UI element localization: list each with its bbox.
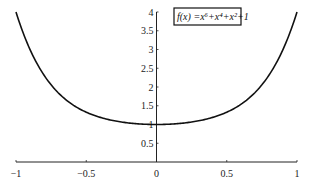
y-tick-label: 0.5	[141, 138, 154, 149]
y-tick-label: 2	[149, 82, 154, 93]
x-tick-label: 0	[154, 168, 159, 179]
x-tick-label: −1	[11, 168, 22, 179]
x-tick-label: 1	[295, 168, 300, 179]
y-tick-label: 4	[149, 7, 154, 18]
y-tick-label: 1.5	[141, 100, 154, 111]
x-tick-label: 0.5	[221, 168, 234, 179]
y-tick-label: 3	[149, 44, 154, 55]
legend: f(x) =x⁶+x⁴+x²+1	[174, 8, 249, 25]
legend-label: f(x) =x⁶+x⁴+x²+1	[177, 11, 249, 23]
chart: −1−0.500.510.511.522.533.54 f(x) =x⁶+x⁴+…	[0, 0, 309, 190]
x-tick-label: −0.5	[77, 168, 95, 179]
y-tick-label: 2.5	[141, 63, 154, 74]
ticks: −1−0.500.510.511.522.533.54	[11, 7, 300, 180]
y-tick-label: 3.5	[141, 25, 154, 36]
